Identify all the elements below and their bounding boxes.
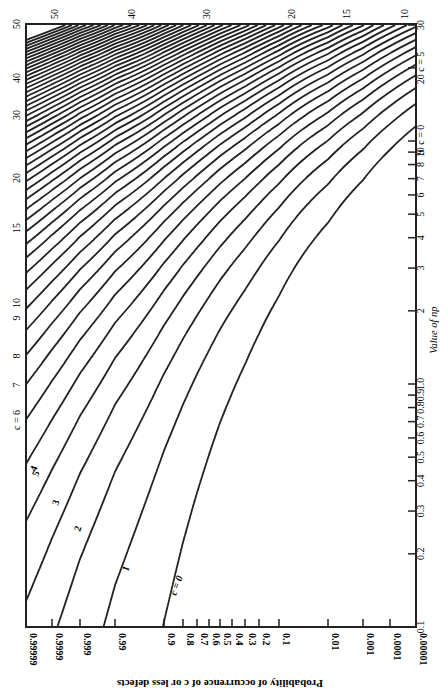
prob-tick-label: 0.00001 — [418, 633, 429, 666]
left-edge-label: 7 — [11, 383, 22, 388]
right-edge-label: 30 — [415, 20, 426, 30]
poisson-chart: 0.999990.99990.9990.990.90.80.70.60.50.4… — [0, 0, 448, 691]
curve-label: 2 — [72, 524, 84, 532]
right-edge-label: 20 c = 5 — [415, 52, 426, 85]
prob-tick-label: 0.9 — [166, 633, 177, 646]
curve-label: c = 0 — [168, 574, 185, 597]
prob-tick-label: 0.2 — [261, 633, 272, 646]
top-edge-label: 50 — [49, 9, 60, 19]
prob-tick-label: 0.8 — [185, 633, 196, 646]
top-edge-label: 40 — [126, 9, 137, 19]
prob-tick-label: 0.7 — [199, 633, 210, 646]
np-tick-label: 0.4 — [415, 474, 426, 487]
np-tick-label: 0.6 — [415, 432, 426, 445]
x-axis-title: Value of np — [428, 306, 439, 353]
left-edge-label: 8 — [11, 354, 22, 359]
np-tick-label: 0.1 — [415, 621, 426, 634]
prob-tick-label: 0.3 — [247, 633, 258, 646]
left-edge-label: 20 — [11, 173, 22, 183]
prob-tick-label: 0.9999 — [54, 633, 65, 661]
np-tick-label: 7 — [415, 176, 426, 181]
prob-tick-label: 0.99999 — [28, 633, 39, 666]
curve-label: 4 — [28, 464, 40, 472]
curve-label: 1 — [120, 564, 132, 572]
prob-tick-label: 0.999 — [82, 633, 93, 656]
top-edge-label: 30 — [201, 9, 212, 19]
left-edge-label: 50 — [11, 19, 22, 29]
top-edge-label: 15 — [341, 9, 352, 19]
curve-group — [26, 25, 416, 627]
np-tick-label: 5 — [415, 212, 426, 217]
np-tick-label: 6 — [415, 192, 426, 197]
left-edge-label: 30 — [11, 110, 22, 120]
np-tick-label: 0.2 — [415, 548, 426, 561]
prob-tick-label: 0.1 — [281, 633, 292, 646]
np-tick-label: 0.8 — [415, 401, 426, 414]
top-edge-label: 20 — [286, 9, 297, 19]
top-edge-label: 10 — [399, 9, 410, 19]
np-tick-label: 0.7 — [415, 415, 426, 428]
np-tick-label: 2 — [415, 308, 426, 313]
np-tick-label: 1.0 — [415, 378, 426, 391]
curve-c-0 — [163, 121, 416, 627]
y-axis-title: Probability of occurrence of c or less d… — [116, 678, 323, 690]
left-edge-label: 15 — [11, 223, 22, 233]
curve-label: 3 — [50, 498, 62, 506]
prob-tick-label: 0.0001 — [392, 633, 403, 661]
np-tick-label: 8 — [415, 162, 426, 167]
prob-tick-label: 0.01 — [330, 633, 341, 651]
prob-tick-label: 0.001 — [365, 633, 376, 656]
np-tick-label: 0.3 — [415, 505, 426, 518]
left-edge-label: 9 — [11, 316, 22, 321]
np-tick-label: 3 — [415, 266, 426, 271]
right-edge-label: 10 c = 0 — [415, 125, 426, 158]
prob-tick-label: 0.6 — [211, 633, 222, 646]
prob-tick-label: 0.99 — [117, 633, 128, 651]
np-tick-label: 0.5 — [415, 451, 426, 464]
np-tick-label: 4 — [415, 235, 426, 240]
left-edge-label: 10 — [11, 298, 22, 308]
prob-tick-label: 0.4 — [234, 633, 245, 646]
left-edge-label: 40 — [11, 73, 22, 83]
left-edge-label: c = 6 — [11, 410, 22, 430]
prob-tick-label: 0.5 — [222, 633, 233, 646]
